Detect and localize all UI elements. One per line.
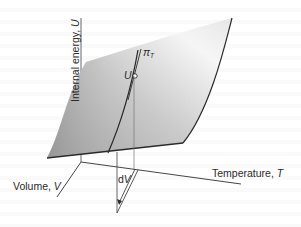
dv-label: dV xyxy=(118,173,132,185)
diagram-canvas: Internal energy, U Temperature, T Volume… xyxy=(0,0,301,227)
internal-energy-diagram: Internal energy, U Temperature, T Volume… xyxy=(0,0,301,227)
temperature-axis-label: Temperature, T xyxy=(212,167,285,179)
u-axis-label: Internal energy, U xyxy=(69,19,81,102)
volume-axis-label: Volume, V xyxy=(13,180,62,192)
point-u-marker xyxy=(133,74,137,78)
point-u-label: U xyxy=(124,69,132,81)
